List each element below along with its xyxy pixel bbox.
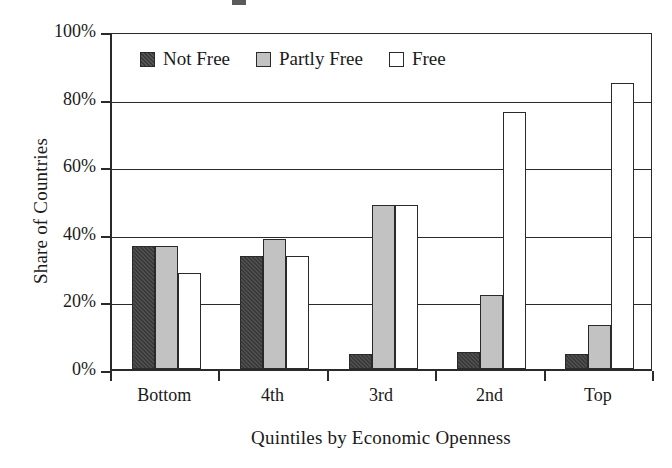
bar [457,352,480,369]
y-tick-label: 80% [63,89,96,110]
x-tick-label: 3rd [327,385,435,406]
x-tick-label: 2nd [435,385,543,406]
y-tick-label: 60% [63,156,96,177]
legend-swatch-icon [140,52,155,67]
plot-area [110,33,652,371]
x-tick-mark [218,371,220,381]
legend-label: Partly Free [279,48,363,70]
y-tick-label: 40% [63,224,96,245]
bar-chart: Share of Countries 0%20%40%60%80%100% Bo… [0,0,672,468]
legend-label: Not Free [163,48,230,70]
y-tick-mark [101,236,110,238]
x-tick-mark [327,371,329,381]
y-tick-mark [101,371,110,373]
bar [480,295,503,369]
legend-swatch-icon [389,52,404,67]
legend-item: Free [389,48,446,70]
y-tick-label: 20% [63,291,96,312]
x-tick-label: Bottom [110,385,218,406]
chart-legend: Not FreePartly FreeFree [140,48,446,70]
bar [286,256,309,369]
x-tick-mark [544,371,546,381]
x-tick-mark [110,371,112,381]
bar [240,256,263,369]
bar [263,239,286,369]
bar [395,205,418,369]
bar [349,354,372,369]
bar [372,205,395,369]
bar [565,354,588,369]
y-tick-mark [101,303,110,305]
y-axis-title: Share of Countries [30,96,52,326]
gridline [112,169,651,170]
y-tick-label: 100% [54,21,96,42]
x-axis-title: Quintiles by Economic Openness [110,427,652,449]
legend-item: Not Free [140,48,230,70]
legend-swatch-icon [256,52,271,67]
bar [155,246,178,369]
bar [611,83,634,369]
x-tick-mark [652,371,654,381]
bar [178,273,201,369]
y-tick-label: 0% [72,359,96,380]
x-tick-mark [435,371,437,381]
gridline [112,102,651,103]
x-tick-label: 4th [218,385,326,406]
bar [503,112,526,369]
legend-label: Free [412,48,446,70]
x-tick-label: Top [544,385,652,406]
legend-item: Partly Free [256,48,363,70]
bar [132,246,155,369]
y-tick-mark [101,168,110,170]
y-tick-mark [101,101,110,103]
y-tick-mark [101,33,110,35]
bar [588,325,611,369]
cropped-title-remnant [232,0,246,5]
